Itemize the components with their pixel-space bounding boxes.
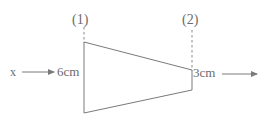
figure-canvas: (1) (2) x 6cm 3cm — [0, 0, 265, 125]
outlet-dimension-label: 3cm — [193, 66, 215, 79]
inlet-dimension-label: 6cm — [57, 65, 79, 78]
section-label-1: (1) — [72, 13, 88, 27]
axis-label-x: x — [10, 66, 16, 78]
section-label-2: (2) — [182, 13, 198, 27]
duct-outline — [84, 42, 192, 113]
duct-diagram-svg — [0, 0, 265, 125]
